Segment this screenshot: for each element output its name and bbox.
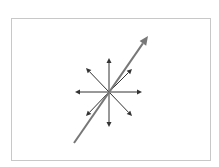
arrow-up-left-shaft bbox=[89, 72, 109, 92]
arrow-right-arrowhead-icon bbox=[137, 90, 142, 95]
vector-diagram bbox=[0, 0, 219, 167]
arrow-down-right-shaft bbox=[109, 92, 129, 112]
arrow-down-arrowhead-icon bbox=[107, 122, 112, 127]
arrow-up-arrowhead-icon bbox=[107, 58, 112, 63]
arrow-left-arrowhead-icon bbox=[75, 90, 80, 95]
large-diagonal-arrow-arrowhead-icon bbox=[140, 36, 148, 46]
resultant-arrow bbox=[74, 36, 148, 143]
large-diagonal-arrow-shaft bbox=[74, 43, 143, 143]
